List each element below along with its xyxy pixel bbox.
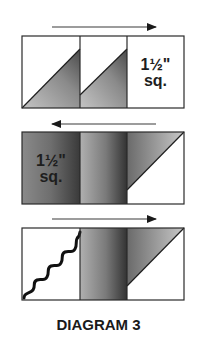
row-3-strip [22, 228, 184, 300]
row-2-cell-2-gray-strip [80, 132, 127, 204]
row-2-sq-label: sq. [22, 169, 80, 185]
diagram-caption: DIAGRAM 3 [0, 316, 197, 333]
row-2-cell-1-label: 1½" sq. [22, 153, 80, 185]
row-1-sq-label: sq. [127, 73, 184, 89]
row-2-size-label: 1½" [22, 153, 80, 169]
row-3-cell-2-gray-strip [80, 228, 127, 300]
row-1-size-label: 1½" [127, 57, 184, 73]
row-1-cell-3-label: 1½" sq. [127, 57, 184, 89]
